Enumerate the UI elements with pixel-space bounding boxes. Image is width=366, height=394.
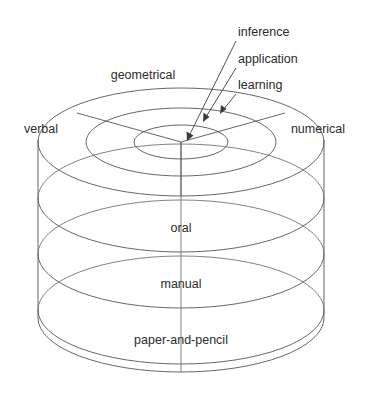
top-radial-divider-right: [181, 113, 285, 142]
figure-labels: geometrical verbal numerical inference a…: [24, 25, 345, 347]
top-radial-divider-left: [77, 113, 181, 142]
layered-cylinder-figure: geometrical verbal numerical inference a…: [0, 0, 366, 394]
label-paper-and-pencil: paper-and-pencil: [134, 333, 228, 347]
top-face: [38, 88, 324, 196]
label-learning: learning: [238, 78, 283, 92]
diagram-canvas: geometrical verbal numerical inference a…: [0, 0, 366, 394]
label-inference: inference: [238, 25, 289, 39]
label-verbal: verbal: [24, 122, 58, 136]
label-application: application: [238, 52, 298, 66]
label-manual: manual: [161, 277, 202, 291]
application-arrow-head: [203, 113, 210, 123]
learning-arrow-line: [223, 94, 236, 110]
label-oral: oral: [171, 221, 192, 235]
label-geometrical: geometrical: [111, 68, 176, 82]
label-numerical: numerical: [291, 122, 345, 136]
